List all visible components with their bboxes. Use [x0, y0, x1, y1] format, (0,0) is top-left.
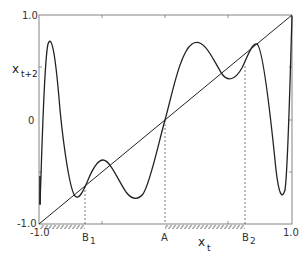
b1-label: B: [82, 232, 89, 243]
b2-label-sub: 2: [250, 236, 256, 246]
fixed-point-markers: [85, 66, 245, 224]
x-tick-right: 1.0: [283, 227, 299, 238]
y-tick-top: 1.0: [22, 10, 38, 21]
b2-label: B: [242, 232, 249, 243]
y-tick-mid: 0: [28, 115, 34, 126]
hatched-interval-right: [165, 225, 245, 229]
y-axis-label-sub: t+2: [21, 69, 38, 79]
b1-label-sub: 1: [90, 236, 96, 246]
a-label: A: [161, 232, 168, 243]
x-axis-label: x: [198, 235, 205, 249]
x-tick-left: -1.0: [30, 227, 50, 238]
chart: 1.0 0 -1.0 x t+2 -1.0 1.0 B 1 A B 2 x t: [0, 0, 305, 261]
x-axis-label-sub: t: [207, 243, 211, 253]
y-axis-label: x: [12, 62, 19, 76]
map-curve: [40, 16, 292, 205]
